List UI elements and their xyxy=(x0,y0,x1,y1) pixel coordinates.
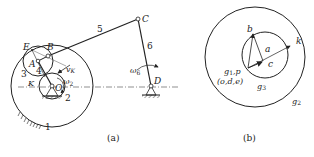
label-B: B xyxy=(46,42,54,52)
label-E: E xyxy=(22,42,30,52)
label-omega6: ω6 xyxy=(130,66,141,76)
link-5 xyxy=(48,19,138,56)
pivot-E xyxy=(31,49,33,51)
vector-bc xyxy=(253,34,263,61)
label-link-3: 3 xyxy=(21,69,27,79)
label-ode: (o,d,e) xyxy=(217,77,243,86)
label-k: k xyxy=(296,36,301,46)
pivot-B xyxy=(46,54,50,58)
figure-b: b a k c g1,p (o,d,e) g3 g2 (b) xyxy=(205,7,305,143)
label-link-1: 1 xyxy=(45,122,51,132)
label-link-4: 4 xyxy=(36,66,42,76)
label-c: c xyxy=(268,59,273,69)
label-D: D xyxy=(153,76,161,86)
label-O: O xyxy=(55,83,63,93)
circle-g2 xyxy=(205,7,305,107)
circle-g3 xyxy=(242,32,288,78)
label-g2: g2 xyxy=(292,97,301,106)
label-vK: vK xyxy=(66,65,76,74)
label-g3: g3 xyxy=(257,82,266,91)
pivot-A xyxy=(36,59,40,63)
label-a: a xyxy=(265,44,270,54)
label-link-5: 5 xyxy=(97,24,103,34)
caption-b: (b) xyxy=(243,133,256,143)
mechanism-diagram: E B A C D K O 3 4 2 1 5 6 vK ω2 ω6 (a) b… xyxy=(0,0,314,157)
label-A: A xyxy=(28,59,36,69)
ground-D xyxy=(142,84,160,98)
label-omega2: ω2 xyxy=(63,77,74,87)
label-link-6: 6 xyxy=(147,41,153,51)
caption-a: (a) xyxy=(107,133,119,143)
label-K: K xyxy=(27,79,35,88)
figure-a: E B A C D K O 3 4 2 1 5 6 vK ω2 ω6 (a) xyxy=(11,14,178,143)
label-C: C xyxy=(142,14,149,24)
pivot-C xyxy=(136,17,140,21)
label-b: b xyxy=(247,24,253,34)
label-g1p: g1,p xyxy=(224,67,241,76)
label-link-2: 2 xyxy=(65,93,71,103)
